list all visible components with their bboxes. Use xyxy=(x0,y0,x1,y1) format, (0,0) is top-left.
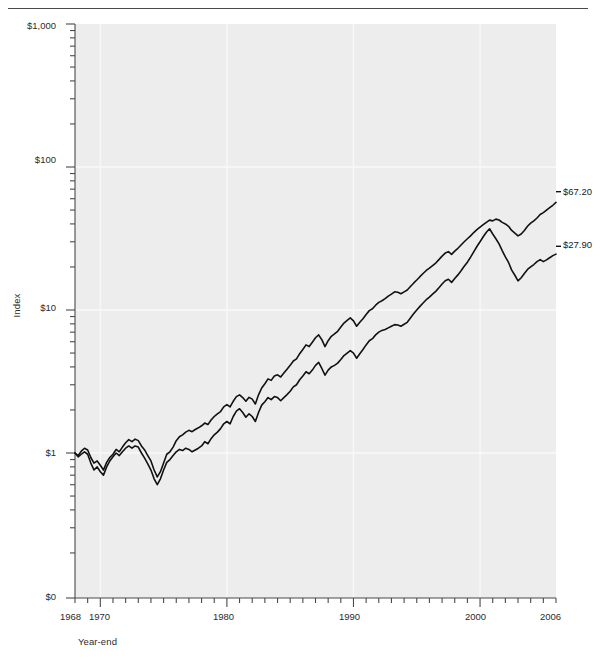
plot-canvas xyxy=(0,0,601,659)
chart-figure: Index Year-end $1,000 $100 $10 $1 $0 196… xyxy=(0,0,601,659)
plot-background xyxy=(75,24,556,598)
